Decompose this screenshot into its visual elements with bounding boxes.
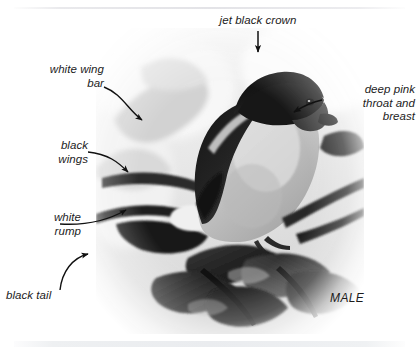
figure-page: jet black crown white wing bar black win… (0, 0, 419, 353)
label-black-wings: black wings (6, 139, 88, 166)
bottom-divider-rule (14, 341, 405, 347)
label-white-rump: white rump (6, 211, 81, 238)
label-jet-black-crown: jet black crown (174, 14, 342, 28)
sex-caption: MALE (330, 291, 400, 305)
label-white-wing-bar: white wing bar (6, 63, 104, 90)
photo-content (96, 28, 364, 334)
eye-highlight (308, 100, 311, 102)
bullfinch-photograph (96, 28, 364, 334)
photo-canvas (96, 28, 364, 334)
belly-shade (222, 164, 282, 228)
eye (306, 98, 314, 105)
arrow-tail (60, 254, 88, 290)
label-black-tail: black tail (6, 289, 98, 303)
label-deep-pink-throat-and-breast: deep pink throat and breast (327, 83, 415, 124)
photo-svg (96, 28, 364, 334)
top-divider-rule (14, 7, 405, 9)
